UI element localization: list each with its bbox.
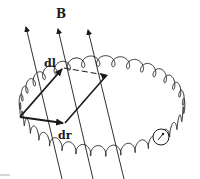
field-lines xyxy=(26,27,124,179)
corner-arrowhead xyxy=(100,73,108,80)
parallelogram xyxy=(20,68,108,123)
dr-label: dr xyxy=(58,130,72,141)
field-line-2 xyxy=(58,29,93,179)
parallelogram-side-right xyxy=(65,76,106,123)
diagram-canvas xyxy=(0,0,200,179)
dr-vector xyxy=(20,117,63,123)
field-label-b: B xyxy=(56,8,66,20)
dl-label: dl xyxy=(44,58,56,69)
meter-icon xyxy=(153,129,169,145)
